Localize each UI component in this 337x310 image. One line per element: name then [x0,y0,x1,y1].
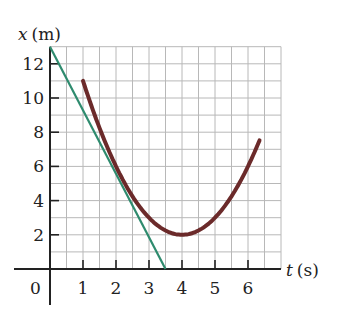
position-curve [83,81,260,235]
x-tick-label: 5 [210,278,221,298]
x-tick-label: 4 [177,278,188,298]
y-tick-label: 6 [33,156,44,176]
y-tick-label: 2 [33,225,44,245]
tangent-line [50,47,166,269]
x-tick-label: 3 [144,278,155,298]
ticks: 12345624681012 [22,54,253,298]
x-axis-label: t(s) [286,260,319,280]
y-tick-label: 4 [33,191,44,211]
x-tick-label: 6 [243,278,254,298]
y-axis-label: x(m) [18,24,61,44]
y-tick-label: 8 [33,122,44,142]
y-tick-label: 12 [22,54,44,74]
x-tick-label: 2 [111,278,122,298]
axes [14,47,281,305]
origin-label: 0 [30,278,41,298]
position-time-chart: 12345624681012 x(m) t(s) 0 [0,0,337,310]
y-tick-label: 10 [22,88,44,108]
x-tick-label: 1 [78,278,89,298]
